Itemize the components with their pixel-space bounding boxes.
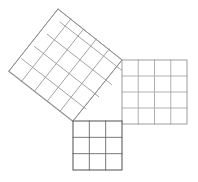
leg-a-square-face — [73, 121, 122, 170]
hypotenuse-square — [9, 9, 124, 121]
figure-canvas — [0, 0, 198, 182]
pythagorean-figure — [0, 0, 198, 182]
leg-a-square — [73, 121, 122, 170]
leg-b-square — [122, 60, 187, 124]
